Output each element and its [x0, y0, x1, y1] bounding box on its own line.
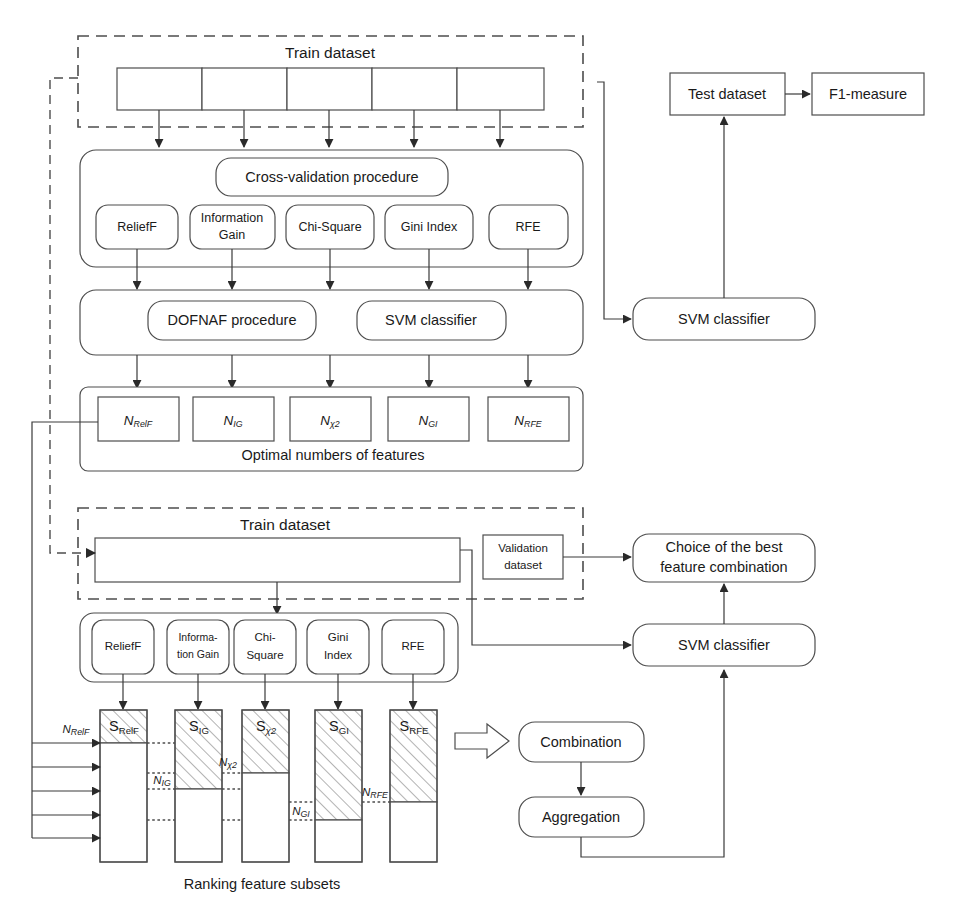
- bar-threshold-label-gi: NGI: [292, 805, 310, 820]
- choice-best-combination-line1: Choice of the best: [666, 539, 783, 555]
- svm-classifier-top-label: SVM classifier: [678, 311, 770, 327]
- selector-rfe-label: RFE: [516, 220, 541, 234]
- bar-s-chi2-body: [242, 773, 289, 862]
- dofnaf-label: DOFNAF procedure: [168, 312, 297, 328]
- bar-s-ig-body: [175, 789, 222, 862]
- stage2-train-dataset-title: Train dataset: [240, 516, 331, 533]
- stage2-selector-chi-square-line2: Square: [246, 649, 283, 661]
- cross-validation-label: Cross-validation procedure: [245, 169, 418, 185]
- selector-gini-index-label: Gini Index: [401, 220, 458, 234]
- svm-classifier-inner-label: SVM classifier: [385, 312, 477, 328]
- choice-best-combination-line2: feature combination: [660, 559, 787, 575]
- bar-threshold-label-ig: NIG: [153, 774, 171, 789]
- fold-cell: [287, 68, 372, 110]
- bar-s-gi-body: [315, 820, 362, 862]
- test-dataset-label: Test dataset: [688, 86, 766, 102]
- stage2-selector-gini-index-line1: Gini: [328, 631, 348, 643]
- diagram-canvas: Train dataset Cross-validation procedure…: [0, 0, 955, 921]
- bar-threshold-label-rfe: NRFE: [362, 786, 388, 801]
- stage1-train-dataset-title: Train dataset: [285, 44, 376, 61]
- validation-dataset-label-line2: dataset: [504, 559, 543, 571]
- stage2-selector-chi-square-line1: Chi-: [254, 631, 275, 643]
- fold-cell: [372, 68, 457, 110]
- bar-threshold-label-relieff: NRelF: [63, 723, 91, 738]
- selector-information-gain-label-line1: Information: [201, 211, 264, 225]
- bar-s-relieff-body: [100, 743, 147, 862]
- bar-s-rfe-body: [390, 802, 437, 862]
- stage2-selector-gini-index[interactable]: [307, 620, 369, 674]
- fold-cell: [457, 68, 544, 110]
- stage2-selector-relieff-label: ReliefF: [105, 640, 141, 652]
- f1-measure-label: F1-measure: [829, 86, 907, 102]
- line-train1-to-svm-top: [597, 82, 631, 319]
- svm-classifier-bottom-label: SVM classifier: [678, 637, 770, 653]
- stage2-selector-rfe-label: RFE: [402, 640, 425, 652]
- ranking-feature-subsets-caption: Ranking feature subsets: [184, 876, 340, 892]
- optimal-numbers-caption: Optimal numbers of features: [242, 447, 425, 463]
- selector-chi-square-label: Chi-Square: [298, 220, 361, 234]
- stage2-selector-information-gain-line1: Informa-: [178, 631, 218, 643]
- selector-information-gain-label-line2: Gain: [219, 228, 245, 242]
- stage2-selector-information-gain-line2: tion Gain: [177, 648, 219, 660]
- stage2-selector-chi-square[interactable]: [234, 620, 296, 674]
- fold-cell: [117, 68, 202, 110]
- stage2-train-dataset-bar: [95, 538, 460, 582]
- aggregation-label: Aggregation: [542, 809, 620, 825]
- block-arrow-to-combination: [455, 724, 509, 758]
- selector-relieff-label: ReliefF: [117, 220, 157, 234]
- validation-dataset-label-line1: Validation: [498, 542, 548, 554]
- fold-cell: [202, 68, 287, 110]
- combination-label: Combination: [540, 734, 621, 750]
- stage2-selector-gini-index-line2: Index: [324, 649, 352, 661]
